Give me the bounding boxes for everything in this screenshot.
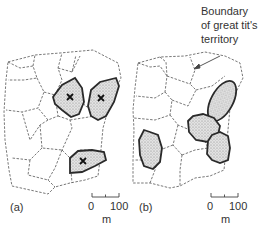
scale-b-end: 100 bbox=[229, 200, 247, 213]
scale-a-start: 0 bbox=[88, 200, 94, 213]
scale-b-unit: m bbox=[221, 213, 230, 226]
territory-a2 bbox=[88, 78, 119, 120]
annotation-line-1: Boundary bbox=[201, 4, 258, 18]
panel-a-map bbox=[4, 50, 121, 194]
territory-b1 bbox=[139, 130, 162, 169]
annotation-line-3: territory bbox=[201, 32, 258, 46]
scale-bar-b bbox=[211, 193, 238, 197]
scale-a-end: 100 bbox=[110, 200, 128, 213]
panel-a-label: (a) bbox=[10, 201, 23, 214]
panel-b-territories bbox=[139, 76, 242, 169]
territory-b4 bbox=[207, 132, 230, 163]
boundary-annotation: Boundary of great tit's territory bbox=[201, 4, 258, 46]
scale-a-unit: m bbox=[102, 213, 111, 226]
annotation-line-2: of great tit's bbox=[201, 18, 258, 32]
scale-bar-a bbox=[92, 193, 119, 197]
annotation-arrow bbox=[194, 56, 220, 69]
territory-a3 bbox=[70, 150, 106, 173]
scale-b-start: 0 bbox=[207, 200, 213, 213]
panel-b-label: (b) bbox=[139, 201, 152, 214]
